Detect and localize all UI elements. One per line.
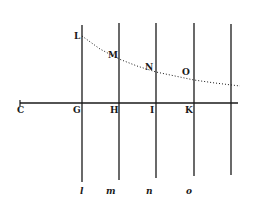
dotted-curve — [82, 36, 240, 86]
geometric-diagram: CGHIKLMNOlmno — [0, 0, 254, 216]
curve-label-L: L — [74, 31, 81, 41]
axis-label-C: C — [17, 105, 24, 115]
horizontal-axis — [20, 100, 238, 106]
bottom-label-m: m — [106, 186, 116, 196]
point-labels: CGHIKLMNOlmno — [17, 31, 194, 196]
axis-label-G: G — [73, 105, 81, 115]
bottom-label-n: n — [146, 186, 153, 196]
axis-label-H: H — [110, 105, 119, 115]
curve-label-N: N — [145, 62, 153, 72]
curve-path — [82, 36, 240, 86]
axis-label-K: K — [185, 105, 194, 115]
curve-label-O: O — [182, 67, 190, 77]
bottom-label-l: l — [80, 186, 84, 196]
axis-label-I: I — [150, 105, 154, 115]
bottom-label-o: o — [186, 186, 192, 196]
curve-label-M: M — [108, 50, 118, 60]
